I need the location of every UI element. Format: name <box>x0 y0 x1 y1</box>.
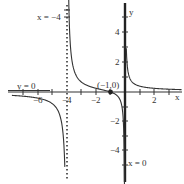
asymptote-label-y-0: y = 0 <box>17 81 36 91</box>
asymptote-label-x-0: x = 0 <box>128 158 147 168</box>
tick-label-x-neg6: −6 <box>33 95 43 105</box>
tick-label-x-neg2: −2 <box>91 95 101 105</box>
tick-label-y-neg2: −2 <box>110 116 120 126</box>
zero-point-marker <box>108 90 113 95</box>
tick-label-y-2: 2 <box>115 57 120 67</box>
y-axis-label: y <box>129 7 134 17</box>
zero-point-label: (−1,0) <box>97 80 119 90</box>
x-axis-label: x <box>175 92 180 102</box>
tick-label-x-neg4: −4 <box>62 95 72 105</box>
tick-label-x-2: 2 <box>152 95 157 105</box>
curve-branch-left <box>12 95 65 166</box>
function-graph: x = −4 y x y = 0 (−1,0) x = 0 −6 −4 −2 2… <box>0 0 184 184</box>
asymptote-label-x-neg4: x = −4 <box>37 12 61 22</box>
tick-label-y-neg4: −4 <box>110 145 120 155</box>
curve-branch-right <box>126 48 181 89</box>
tick-label-y-4: 4 <box>115 27 120 37</box>
